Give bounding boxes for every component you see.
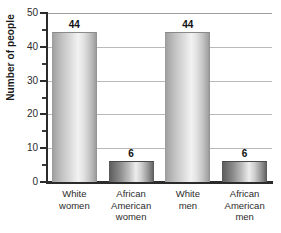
bar-value-label: 6 xyxy=(109,149,154,159)
bar xyxy=(222,161,267,182)
category-label-line: men xyxy=(212,211,278,223)
bar xyxy=(52,32,97,182)
bar-chart: Number of people 01020304050 446446 Whit… xyxy=(0,0,281,233)
y-tick-label-0: 0 xyxy=(2,177,38,187)
category-label-line: women xyxy=(98,211,164,223)
y-tick-label-10: 10 xyxy=(2,143,38,153)
category-label: AfricanAmericanmen xyxy=(212,188,278,223)
y-tick-label-30: 30 xyxy=(2,76,38,86)
bar-value-label: 6 xyxy=(222,149,267,159)
bar-value-label: 44 xyxy=(165,20,210,30)
bar xyxy=(109,161,154,182)
bar-value-label: 44 xyxy=(52,20,97,30)
bar xyxy=(165,32,210,182)
y-tick-label-40: 40 xyxy=(2,42,38,52)
category-label-line: African xyxy=(212,188,278,200)
category-label-line: American xyxy=(212,200,278,212)
y-tick-label-50: 50 xyxy=(2,8,38,18)
y-axis-title: Number of people xyxy=(5,0,16,122)
y-tick-label-20: 20 xyxy=(2,109,38,119)
